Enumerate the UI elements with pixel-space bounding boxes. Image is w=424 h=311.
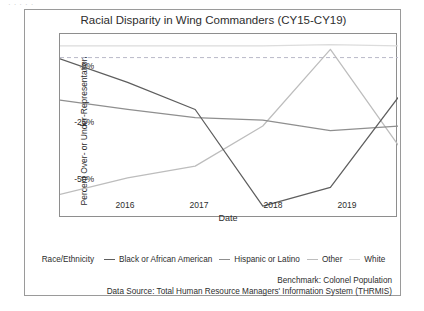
- legend-item-2[interactable]: Other: [307, 255, 342, 264]
- legend-swatch-icon-3: [349, 259, 360, 261]
- series-line-black-or-african-american: [60, 59, 398, 206]
- chart-card: Racial Disparity in Wing Commanders (CY1…: [24, 9, 401, 296]
- legend-label-2: Other: [322, 255, 342, 264]
- legend-title: Race/Ethnicity: [42, 255, 94, 264]
- legend-swatch-icon-2: [307, 259, 318, 261]
- chart-legend: Race/Ethnicity Black or African American…: [25, 255, 402, 264]
- series-line-hispanic-or-latino: [60, 100, 398, 131]
- legend-label-3: White: [364, 255, 385, 264]
- data-source-note: Data Source: Total Human Resource Manage…: [31, 287, 392, 296]
- x-tick-label-2017: 2017: [179, 200, 219, 210]
- plot-area: Percent Over- or Under-Representation 0%…: [59, 33, 397, 217]
- series-line-other: [60, 49, 398, 194]
- x-axis-title: Date: [59, 213, 397, 223]
- legend-label-1: Hispanic or Latino: [234, 255, 300, 264]
- x-tick-label-2018: 2018: [253, 200, 293, 210]
- chart-title: Racial Disparity in Wing Commanders (CY1…: [25, 14, 402, 26]
- legend-item-3[interactable]: White: [349, 255, 385, 264]
- benchmark-note: Benchmark: Colonel Population: [31, 276, 392, 285]
- legend-swatch-icon-0: [104, 259, 115, 261]
- legend-item-1[interactable]: Hispanic or Latino: [219, 255, 300, 264]
- legend-label-0: Black or African American: [119, 255, 212, 264]
- series-line-white: [60, 45, 398, 46]
- legend-item-0[interactable]: Black or African American: [104, 255, 212, 264]
- legend-swatch-icon-1: [219, 259, 230, 261]
- x-tick-label-2019: 2019: [327, 200, 367, 210]
- scan-top-fragment: · · · · ·: [0, 0, 424, 9]
- series-canvas: [60, 34, 398, 218]
- x-tick-label-2016: 2016: [105, 200, 145, 210]
